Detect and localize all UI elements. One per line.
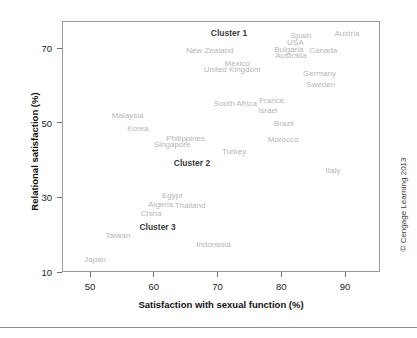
data-point-label: South Africa (214, 99, 257, 108)
data-point-label: Turkey (222, 147, 246, 156)
x-tick-mark (345, 272, 346, 277)
copyright-credit: © Cengage Learning 2013 (399, 125, 408, 285)
x-tick-label: 90 (340, 281, 351, 292)
data-point-label: Japan (84, 254, 106, 263)
data-point-label: Israel (258, 106, 278, 115)
data-point-label: France (259, 96, 284, 105)
data-point-label: Taiwan (106, 231, 131, 240)
data-point-label: China (141, 209, 162, 218)
x-tick-label: 70 (212, 281, 223, 292)
y-tick-label: 50 (41, 117, 52, 128)
y-tick-mark (57, 197, 62, 198)
data-point-label: Italy (326, 166, 341, 175)
data-point-label: Australia (275, 50, 306, 59)
data-point-label: Canada (309, 46, 337, 55)
data-point-label: New Zealand (186, 45, 233, 54)
data-point-label: Indonesia (196, 240, 231, 249)
x-tick-label: 50 (85, 281, 96, 292)
data-point-label: Austria (334, 29, 359, 38)
cluster-annotation: Cluster 1 (211, 28, 247, 37)
y-tick-label: 30 (41, 192, 52, 203)
data-point-label: Singapore (154, 139, 190, 148)
x-axis-title: Satisfaction with sexual function (%) (62, 299, 380, 310)
data-point-label: Morocco (268, 135, 299, 144)
data-point-label: Algeria (148, 200, 173, 209)
scatter-plot-figure: 70503010 5060708090 AustriaSpainUSABulga… (0, 0, 417, 338)
data-point-label: United Kingdom (204, 64, 261, 73)
cluster-annotation: Cluster 2 (174, 158, 210, 167)
x-tick-mark (153, 272, 154, 277)
data-point-label: Brazil (274, 119, 294, 128)
x-tick-label: 60 (148, 281, 159, 292)
y-tick-label: 70 (41, 43, 52, 54)
data-point-label: Korea (127, 124, 148, 133)
y-tick-mark (57, 48, 62, 49)
data-point-label: Sweden (306, 80, 335, 89)
x-tick-mark (281, 272, 282, 277)
bottom-divider (0, 327, 417, 328)
data-point-label: Germany (303, 69, 336, 78)
x-tick-mark (217, 272, 218, 277)
y-tick-mark (57, 122, 62, 123)
y-tick-label: 10 (41, 267, 52, 278)
data-point-label: Thailand (175, 200, 206, 209)
y-axis-title: Relational satisfaction (%) (29, 52, 40, 252)
data-point-label: Malaysia (112, 110, 144, 119)
y-tick-mark (57, 272, 62, 273)
cluster-annotation: Cluster 3 (139, 223, 175, 232)
x-tick-mark (90, 272, 91, 277)
x-tick-label: 80 (276, 281, 287, 292)
